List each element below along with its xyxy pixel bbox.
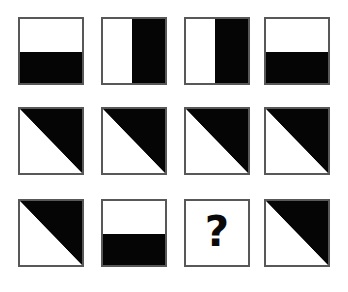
vertical-split-shape	[103, 19, 165, 83]
vertical-split-shape	[186, 19, 248, 83]
horizontal-split-shape	[266, 19, 328, 83]
pattern-cell-r3c3-unknown[interactable]: ?	[184, 199, 250, 267]
pattern-cell-r2c1[interactable]	[18, 107, 84, 175]
pattern-cell-r1c4[interactable]	[264, 17, 330, 85]
horizontal-split-shape	[20, 19, 82, 83]
diagonal-triangle-shape	[103, 109, 165, 173]
pattern-cell-r2c4[interactable]	[264, 107, 330, 175]
pattern-cell-r3c2[interactable]	[101, 199, 167, 267]
pattern-cell-r1c3[interactable]	[184, 17, 250, 85]
horizontal-split-shape	[103, 201, 165, 265]
diagonal-triangle-shape	[266, 201, 328, 265]
pattern-cell-r1c1[interactable]	[18, 17, 84, 85]
diagonal-triangle-shape	[20, 109, 82, 173]
question-mark-icon: ?	[186, 201, 248, 265]
matrix-row	[0, 107, 348, 179]
pattern-cell-r2c2[interactable]	[101, 107, 167, 175]
pattern-cell-r3c4[interactable]	[264, 199, 330, 267]
matrix-row: ?	[0, 199, 348, 271]
puzzle-grid: ?	[0, 0, 348, 292]
matrix-row	[0, 17, 348, 89]
pattern-cell-r3c1[interactable]	[18, 199, 84, 267]
diagonal-triangle-shape	[186, 109, 248, 173]
pattern-cell-r2c3[interactable]	[184, 107, 250, 175]
diagonal-triangle-shape	[20, 201, 82, 265]
diagonal-triangle-shape	[266, 109, 328, 173]
pattern-cell-r1c2[interactable]	[101, 17, 167, 85]
